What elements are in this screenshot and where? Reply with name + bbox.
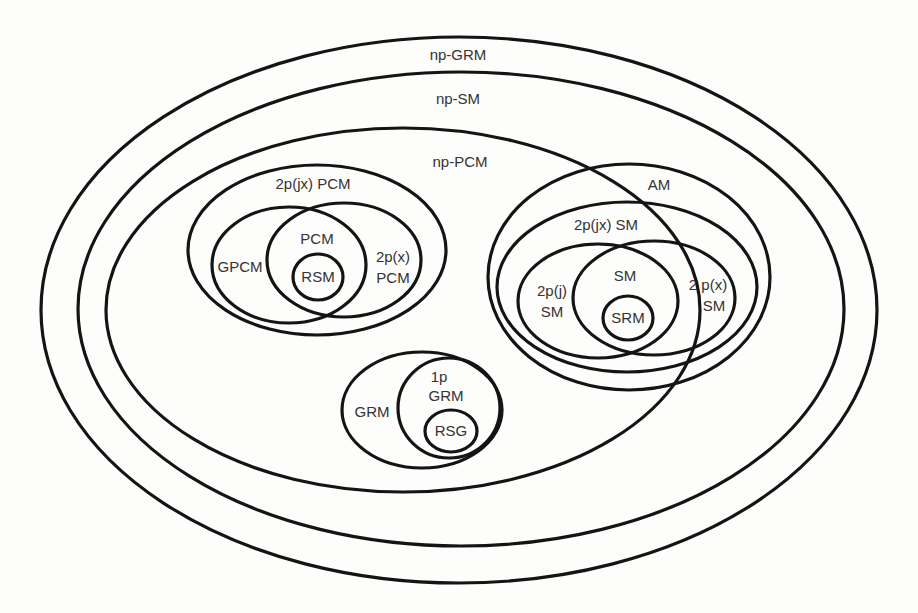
label-2px-pcm-line2: PCM	[376, 269, 409, 286]
diagram-canvas: np-GRM np-SM np-PCM 2p(jx) PCM GPCM PCM …	[0, 0, 918, 613]
label-2pjx-sm: 2p(jx) SM	[574, 216, 638, 233]
label-np-grm: np-GRM	[430, 46, 487, 63]
label-np-sm: np-SM	[436, 90, 480, 107]
label-pcm: PCM	[300, 230, 333, 247]
label-gpcm: GPCM	[218, 258, 263, 275]
ellipse-np-sm	[78, 72, 844, 546]
ellipse-1p-grm	[398, 358, 500, 458]
label-grm: GRM	[355, 403, 390, 420]
label-2px-sm-line2: SM	[703, 297, 726, 314]
label-2px-sm-line1: 2 p(x)	[689, 276, 727, 293]
label-1p-grm-line2: GRM	[429, 387, 464, 404]
label-np-pcm: np-PCM	[432, 153, 487, 170]
label-srm: SRM	[611, 309, 644, 326]
label-2pjx-pcm: 2p(jx) PCM	[275, 175, 350, 192]
label-am: AM	[648, 176, 671, 193]
label-2px-pcm-line1: 2p(x)	[376, 248, 410, 265]
venn-diagram: np-GRM np-SM np-PCM 2p(jx) PCM GPCM PCM …	[0, 0, 918, 613]
label-sm: SM	[614, 267, 637, 284]
label-2pj-sm-line1: 2p(j)	[537, 282, 567, 299]
label-rsg: RSG	[435, 422, 468, 439]
label-rsm: RSM	[301, 268, 334, 285]
label-1p-grm-line1: 1p	[431, 368, 448, 385]
label-2pj-sm-line2: SM	[541, 303, 564, 320]
